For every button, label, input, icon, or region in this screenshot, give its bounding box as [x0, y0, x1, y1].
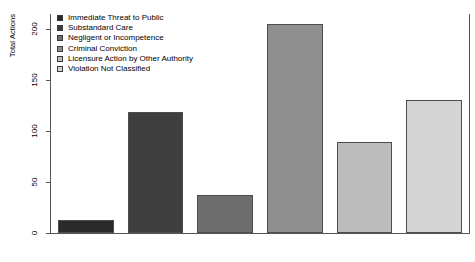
legend-item[interactable]: Violation Not Classified	[57, 64, 193, 74]
legend-item[interactable]: Immediate Threat to Public	[57, 13, 193, 23]
x-axis-line	[50, 233, 470, 234]
legend-item[interactable]: Negligent or Incompetence	[57, 33, 193, 43]
bar-chart-figure: Total Actions 050100150200 Immediate Thr…	[0, 0, 475, 262]
bar-4[interactable]	[337, 142, 393, 233]
legend-item-label: Criminal Conviction	[68, 44, 137, 54]
legend-item-label: Negligent or Incompetence	[68, 33, 164, 43]
legend-item-label: Licensure Action by Other Authority	[68, 54, 193, 64]
y-tick-label: 0	[30, 220, 40, 246]
legend-swatch-icon	[57, 46, 63, 52]
legend-swatch-icon	[57, 56, 63, 62]
legend-item[interactable]: Substandard Care	[57, 23, 193, 33]
bar-2[interactable]	[197, 195, 253, 233]
y-axis-label: Total Actions	[6, 0, 20, 152]
legend-swatch-icon	[57, 15, 63, 21]
legend: Immediate Threat to PublicSubstandard Ca…	[57, 13, 193, 74]
y-tick-label: 200	[30, 16, 40, 42]
legend-item-label: Substandard Care	[68, 23, 133, 33]
bar-5[interactable]	[406, 100, 462, 233]
bar-3[interactable]	[267, 24, 323, 233]
bar-1[interactable]	[128, 112, 184, 233]
y-tick-label: 100	[30, 118, 40, 144]
legend-item[interactable]: Criminal Conviction	[57, 44, 193, 54]
bar-0[interactable]	[58, 220, 114, 233]
legend-swatch-icon	[57, 66, 63, 72]
legend-item[interactable]: Licensure Action by Other Authority	[57, 54, 193, 64]
legend-item-label: Immediate Threat to Public	[68, 13, 163, 23]
legend-item-label: Violation Not Classified	[68, 64, 150, 74]
legend-swatch-icon	[57, 25, 63, 31]
plot-right-border	[469, 14, 470, 234]
y-tick-label: 50	[30, 169, 40, 195]
y-tick-label: 150	[30, 67, 40, 93]
legend-swatch-icon	[57, 35, 63, 41]
